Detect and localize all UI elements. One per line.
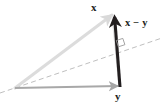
vector-diagram-canvas — [0, 0, 162, 105]
vector-y-label: y — [115, 91, 121, 102]
vector-diagram: x x − y y — [0, 0, 162, 105]
vector-x-label: x — [91, 2, 97, 13]
vector-y-arrow — [15, 86, 118, 88]
projection-dashed-line — [0, 38, 162, 93]
vector-x-arrow — [15, 15, 112, 88]
vector-x-minus-y-label: x − y — [125, 18, 148, 29]
